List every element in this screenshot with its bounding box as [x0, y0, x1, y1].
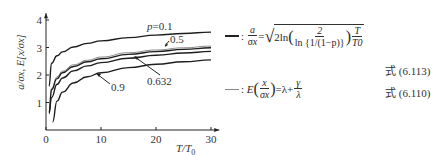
label-p-0-1: p=0.1: [146, 20, 172, 32]
legend-item-expectation: : E ( x σx ) =λ+ γ λ: [225, 78, 303, 100]
legend-dash-light: [225, 89, 239, 90]
y-axis-arrow-icon: [44, 13, 48, 18]
legend: : a σx = √ 2ln ( 2 ln {1/(1−p)} ) T T0: [225, 22, 437, 122]
y-tick-label: 1: [37, 97, 43, 109]
a-over-sigma-fraction: a σx: [248, 25, 257, 47]
y-tick-label: 3: [37, 42, 43, 54]
x-axis-arrow-icon: [214, 128, 219, 132]
label-p-0-632: 0.632: [147, 75, 172, 87]
legend-item-a-sigma: : a σx = √ 2ln ( 2 ln {1/(1−p)} ) T T0: [225, 24, 364, 48]
sqrt-icon: √: [264, 27, 274, 45]
sqrt-expression: √ 2ln ( 2 ln {1/(1−p)} ) T T0: [264, 24, 363, 48]
y-axis-label: a/σx, E[x/σx]: [15, 34, 26, 89]
y-tick-label: 2: [37, 69, 43, 81]
legend-dash-dark: [225, 35, 239, 37]
label-p-0-9: 0.9: [111, 81, 125, 93]
curve-p-0-1: [49, 32, 211, 86]
x-tick-label: 30: [206, 133, 218, 145]
x-tick-label: 10: [96, 133, 108, 145]
curve-p-0-9: [53, 60, 211, 122]
curves: [49, 32, 211, 122]
x-axis-label: T/T0: [176, 142, 195, 157]
equation-ref-6-110: 式 (6.110): [385, 84, 430, 100]
x-tick-label: 20: [151, 133, 163, 145]
legend-sep: :: [241, 30, 244, 42]
y-tick-label: 4: [37, 14, 43, 26]
curve-e-x-x-: [49, 46, 211, 112]
equation-ref-6-113: 式 (6.113): [385, 62, 430, 78]
label-p-0-5: 0.5: [170, 33, 184, 45]
x-tick-label: 0: [43, 133, 49, 145]
